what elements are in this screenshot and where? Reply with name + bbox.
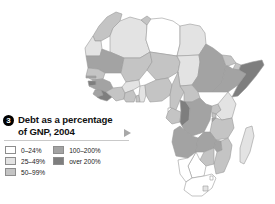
legend-item[interactable]: over 200% bbox=[53, 156, 101, 166]
country-rwanda bbox=[212, 113, 216, 118]
country-nigeria bbox=[145, 78, 172, 102]
legend-swatch bbox=[53, 157, 64, 165]
legend-swatch bbox=[5, 168, 16, 176]
legend-swatch bbox=[5, 157, 16, 165]
legend-swatch bbox=[53, 146, 64, 154]
legend-label: 0–24% bbox=[21, 147, 42, 154]
legend-title: Debt as a percentage of GNP, 2004 bbox=[18, 113, 113, 137]
legend-label: 25–49% bbox=[21, 158, 45, 165]
legend-label: 100–200% bbox=[69, 147, 101, 154]
africa-debt-map-figure: 3 Debt as a percentage of GNP, 2004 0–24… bbox=[0, 0, 275, 204]
country-benin bbox=[139, 85, 146, 102]
legend-item[interactable]: 100–200% bbox=[53, 145, 101, 155]
country-lesotho bbox=[203, 186, 208, 191]
legend-item[interactable]: 50–99% bbox=[5, 167, 45, 177]
figure-number-badge: 3 bbox=[3, 115, 14, 126]
country-gambia bbox=[86, 76, 96, 78]
country-madagascar bbox=[240, 126, 254, 164]
legend-columns: 0–24% 25–49% 50–99% 100–200% bbox=[3, 145, 134, 177]
country-libya bbox=[146, 18, 180, 56]
legend-title-row: 3 Debt as a percentage of GNP, 2004 bbox=[3, 113, 134, 137]
legend-title-line-1: Debt as a percentage bbox=[18, 114, 113, 126]
legend-item[interactable]: 25–49% bbox=[5, 156, 45, 166]
legend-swatch bbox=[5, 146, 16, 154]
legend-column-left: 0–24% 25–49% 50–99% bbox=[5, 145, 45, 177]
legend-column-right: 100–200% over 200% bbox=[53, 145, 101, 177]
legend-label: 50–99% bbox=[21, 169, 45, 176]
legend-item[interactable]: 0–24% bbox=[5, 145, 45, 155]
legend-title-line-2: of GNP, 2004 bbox=[18, 126, 113, 138]
play-triangle-icon[interactable] bbox=[124, 129, 131, 137]
legend-divider bbox=[4, 140, 129, 141]
map-legend: 3 Debt as a percentage of GNP, 2004 0–24… bbox=[0, 110, 136, 181]
country-niger bbox=[147, 52, 180, 80]
legend-label: over 200% bbox=[69, 158, 101, 165]
country-swaziland bbox=[210, 176, 213, 180]
